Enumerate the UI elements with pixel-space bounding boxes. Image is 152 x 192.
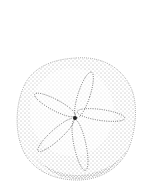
center-pore	[73, 116, 77, 120]
sand-dollar-illustration	[0, 0, 152, 192]
sand-dollar-drawing	[0, 0, 152, 192]
